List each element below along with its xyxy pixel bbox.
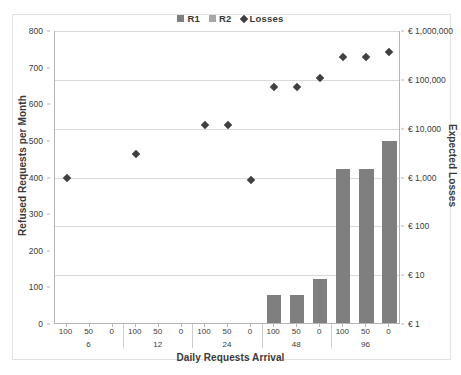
marker-losses-96-0: [385, 47, 393, 55]
y-left-tick: [47, 214, 50, 215]
marker-losses-96-50: [362, 52, 370, 60]
y-left-tick-label: 500: [29, 136, 43, 146]
x-group-separator: [192, 324, 193, 348]
x-subtick-label: 100: [59, 327, 72, 336]
y-right-tick-label: € 10,000: [408, 124, 441, 134]
legend-item-r1[interactable]: R1: [177, 14, 200, 24]
y-left-tick: [47, 104, 50, 105]
marker-losses-48-50: [293, 83, 301, 91]
x-tick: [296, 324, 297, 327]
y-left-tick-label: 300: [29, 209, 43, 219]
x-tick: [227, 324, 228, 327]
x-group-separator: [262, 324, 263, 348]
marker-losses-96-100: [339, 52, 347, 60]
x-subtick-label: 0: [317, 327, 321, 336]
x-tick: [250, 324, 251, 327]
y-right-tick: [401, 324, 404, 325]
y-left-tick-label: 400: [29, 173, 43, 183]
y-right-tick: [401, 275, 404, 276]
legend-swatch-r1-icon: [177, 15, 184, 22]
plot-area: [54, 31, 400, 324]
y-left-tick-label: 100: [29, 282, 43, 292]
x-axis-group-labels: 612244896: [0, 340, 461, 352]
x-tick: [181, 324, 182, 327]
x-tick: [135, 324, 136, 327]
x-subtick-label: 100: [336, 327, 349, 336]
y-left-tick: [47, 287, 50, 288]
y-left-tick-label: 800: [29, 26, 43, 36]
gridline: [55, 31, 399, 32]
legend-item-r2[interactable]: R2: [209, 14, 232, 24]
x-tick: [365, 324, 366, 327]
y-right-tick: [401, 79, 404, 80]
x-tick: [273, 324, 274, 327]
legend-diamond-losses-icon: [239, 15, 247, 23]
y-left-tick: [47, 324, 50, 325]
x-tick: [388, 324, 389, 327]
x-tick: [89, 324, 90, 327]
marker-losses-48-100: [270, 83, 278, 91]
x-group-label: 6: [86, 340, 90, 349]
y-right-tick: [401, 226, 404, 227]
x-group-label: 48: [292, 340, 301, 349]
y-left-tick-label: 600: [29, 99, 43, 109]
x-tick: [112, 324, 113, 327]
x-group-separator: [123, 324, 124, 348]
bar-r1-96-50: [359, 169, 373, 323]
x-subtick-label: 100: [128, 327, 141, 336]
y-right-tick-label: € 10: [408, 270, 425, 280]
bar-r1-48-100: [267, 295, 281, 323]
x-tick: [66, 324, 67, 327]
y-left-tick: [47, 250, 50, 251]
y-left-tick: [47, 67, 50, 68]
x-group-label: 12: [153, 340, 162, 349]
legend-swatch-r2-icon: [209, 15, 216, 22]
x-subtick-label: 50: [153, 327, 162, 336]
x-subtick-label: 100: [197, 327, 210, 336]
y-right-tick-label: € 1,000: [408, 173, 436, 183]
x-subtick-label: 50: [292, 327, 301, 336]
bar-r1-96-0: [382, 141, 396, 323]
x-axis-subtick-labels: 100500100500100500100500100500: [0, 327, 461, 339]
x-group-label: 24: [223, 340, 232, 349]
x-tick: [158, 324, 159, 327]
y-right-tick: [401, 128, 404, 129]
x-subtick-label: 0: [386, 327, 390, 336]
x-axis-title: Daily Requests Arrival: [0, 352, 461, 363]
y-left-tick-label: 200: [29, 246, 43, 256]
x-subtick-label: 0: [248, 327, 252, 336]
x-subtick-label: 100: [266, 327, 279, 336]
x-subtick-label: 50: [361, 327, 370, 336]
x-subtick-label: 50: [84, 327, 93, 336]
bar-r1-96-100: [336, 169, 350, 323]
legend-item-losses[interactable]: Losses: [241, 14, 284, 24]
y-right-tick-label: € 100,000: [408, 75, 446, 85]
x-tick: [342, 324, 343, 327]
bar-r1-48-0: [313, 279, 327, 323]
gridline: [55, 80, 399, 81]
x-subtick-label: 0: [179, 327, 183, 336]
bar-r1-48-50: [290, 295, 304, 323]
y-left-tick: [47, 140, 50, 141]
marker-losses-12-100: [131, 150, 139, 158]
x-subtick-label: 0: [109, 327, 113, 336]
y-axis-right-labels: € 1€ 10€ 100€ 1,000€ 10,000€ 100,000€ 1,…: [401, 31, 456, 324]
legend-label-losses: Losses: [250, 14, 284, 24]
y-axis-left-labels: 0100200300400500600700800: [0, 31, 50, 324]
legend-label-r2: R2: [219, 14, 232, 24]
y-left-tick: [47, 31, 50, 32]
y-left-tick-label: 700: [29, 63, 43, 73]
marker-losses-6-100: [62, 173, 70, 181]
y-right-tick-label: € 1,000,000: [408, 26, 453, 36]
x-tick: [319, 324, 320, 327]
chart-legend: R1 R2 Losses: [0, 14, 461, 24]
y-left-tick: [47, 177, 50, 178]
x-group-label: 96: [361, 340, 370, 349]
x-subtick-label: 50: [223, 327, 232, 336]
x-group-separator: [331, 324, 332, 348]
y-right-tick-label: € 100: [408, 221, 429, 231]
y-right-tick: [401, 31, 404, 32]
x-tick: [204, 324, 205, 327]
chart-container: R1 R2 Losses Refused Requests per Month …: [0, 0, 461, 375]
y-right-tick: [401, 177, 404, 178]
